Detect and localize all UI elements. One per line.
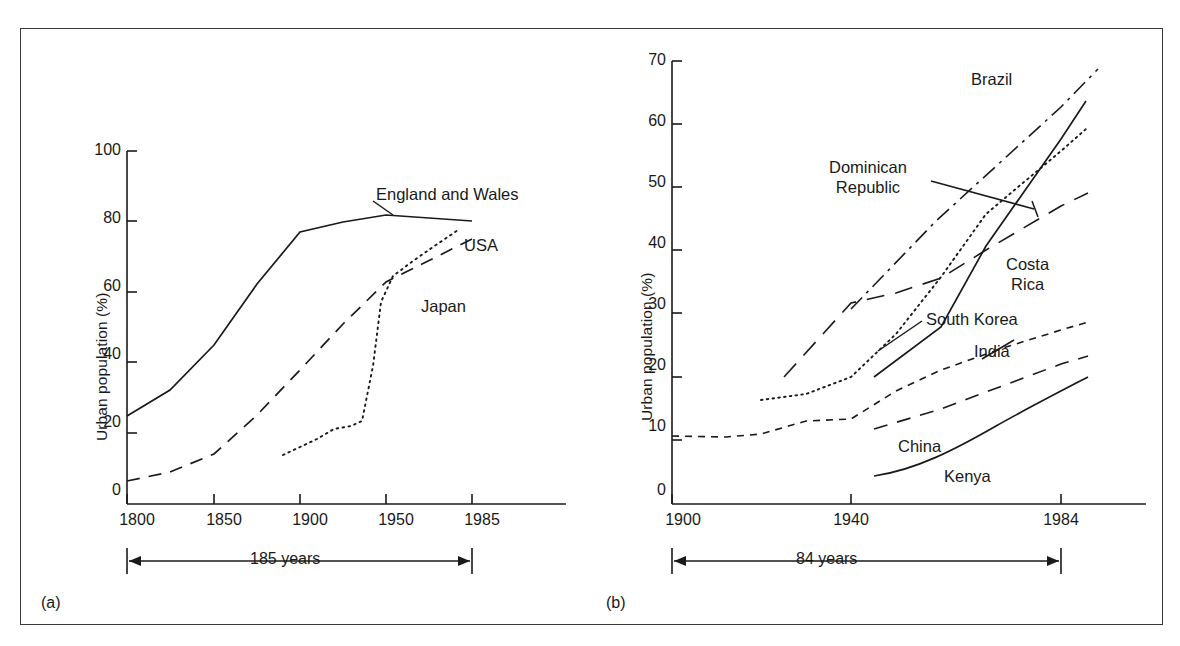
panel-a-series-japan bbox=[283, 230, 458, 455]
panel-b-series-brazil bbox=[851, 69, 1098, 309]
panel-b-series-costa-rica bbox=[784, 193, 1088, 377]
figure-page: Urban population (%) 100 80 60 40 20 0 1… bbox=[0, 0, 1180, 646]
panel-a-series-usa bbox=[127, 239, 472, 481]
figure-frame: Urban population (%) 100 80 60 40 20 0 1… bbox=[20, 28, 1163, 625]
panel-b-series-china bbox=[874, 356, 1088, 429]
panel-b: Urban population (%) 70 60 50 40 30 20 1… bbox=[586, 29, 1164, 624]
panel-a: Urban population (%) 100 80 60 40 20 0 1… bbox=[21, 29, 586, 624]
panel-a-span-arrow bbox=[127, 548, 472, 574]
panel-b-span-arrow bbox=[672, 548, 1061, 574]
panel-b-series-india bbox=[672, 322, 1088, 437]
panel-a-leader-england bbox=[373, 201, 393, 215]
panel-b-leader-dominican-republic bbox=[931, 181, 1034, 209]
panel-b-series-dominican-republic bbox=[761, 129, 1086, 400]
panel-b-series-kenya bbox=[874, 377, 1088, 476]
panel-b-series-south-korea bbox=[874, 101, 1086, 377]
panel-a-plot bbox=[21, 29, 586, 624]
panel-b-leader-india bbox=[982, 340, 1014, 359]
panel-b-plot bbox=[586, 29, 1164, 624]
panel-a-series-england-and-wales bbox=[127, 215, 472, 416]
